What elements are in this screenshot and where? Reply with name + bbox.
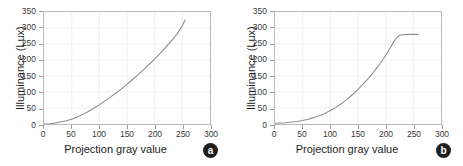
data-curve-b [275,34,418,123]
panel-badge-a: a [203,143,218,158]
x-axis-title: Projection gray value [231,143,463,155]
ytick-label-0: 0 [237,121,267,130]
ytick-mark-250 [39,44,43,45]
ytick-mark-150 [39,76,43,77]
xtick-label-50: 50 [58,130,84,139]
plot-area-a [43,11,211,125]
panel-badge-b: b [436,143,451,158]
ytick-mark-200 [270,60,274,61]
xtick-label-150: 150 [114,130,140,139]
y-axis-title: Illuminance (Lux) [14,26,26,110]
figure-container: 0 50 100 150 200 250 300 350 0 50 100 15… [0,0,463,166]
xtick-label-100: 100 [86,130,112,139]
curve-svg-b [275,12,441,124]
ytick-mark-300 [39,27,43,28]
xtick-label-0: 0 [30,130,56,139]
x-axis-title: Projection gray value [0,143,231,155]
ytick-label-0: 0 [6,121,36,130]
xtick-label-150: 150 [345,130,371,139]
ytick-mark-100 [39,92,43,93]
xtick-label-300: 300 [429,130,455,139]
chart-panel-a: 0 50 100 150 200 250 300 350 0 50 100 15… [0,0,231,166]
ytick-mark-350 [270,11,274,12]
xtick-label-0: 0 [261,130,287,139]
ytick-label-350: 350 [237,7,267,16]
xtick-label-200: 200 [142,130,168,139]
ytick-mark-50 [270,109,274,110]
gridlines-b [275,12,441,124]
ytick-mark-100 [270,92,274,93]
y-axis-title: Illuminance (Lux) [245,26,257,110]
chart-panel-b: 0 50 100 150 200 250 300 350 0 50 100 15… [231,0,463,166]
xtick-label-250: 250 [170,130,196,139]
ytick-mark-150 [270,76,274,77]
xtick-label-100: 100 [317,130,343,139]
ytick-label-350: 350 [6,7,36,16]
ytick-mark-200 [39,60,43,61]
ytick-mark-350 [39,11,43,12]
ytick-mark-250 [270,44,274,45]
xtick-label-250: 250 [401,130,427,139]
xtick-label-200: 200 [373,130,399,139]
curve-svg-a [44,12,210,124]
gridlines-a [44,12,210,124]
xtick-label-300: 300 [198,130,224,139]
ytick-mark-50 [39,109,43,110]
plot-area-b [274,11,442,125]
xtick-label-50: 50 [289,130,315,139]
ytick-mark-300 [270,27,274,28]
